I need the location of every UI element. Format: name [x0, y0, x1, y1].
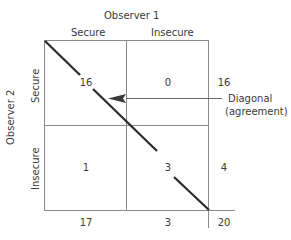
column-total-secure: 17: [76, 218, 96, 228]
cell-secure-secure: 16: [76, 78, 96, 88]
row-total-secure: 16: [214, 78, 234, 88]
cell-insecure-insecure: 3: [158, 163, 178, 173]
table-diagram: [0, 0, 291, 240]
annotation-agreement: (agreement): [225, 107, 288, 117]
observer1-label: Observer 1: [104, 11, 159, 21]
observer2-label: Observer 2: [6, 90, 16, 145]
row-header-secure: Secure: [31, 69, 41, 103]
cell-insecure-secure: 1: [76, 163, 96, 173]
grand-total: 20: [214, 218, 234, 228]
column-total-insecure: 3: [158, 218, 178, 228]
row-header-insecure: Insecure: [31, 147, 41, 190]
column-header-insecure: Insecure: [151, 28, 194, 38]
arrow-icon: [108, 94, 222, 103]
column-header-secure: Secure: [71, 28, 105, 38]
row-total-insecure: 4: [214, 163, 234, 173]
annotation-diagonal: Diagonal: [228, 94, 272, 104]
cell-secure-insecure: 0: [158, 78, 178, 88]
